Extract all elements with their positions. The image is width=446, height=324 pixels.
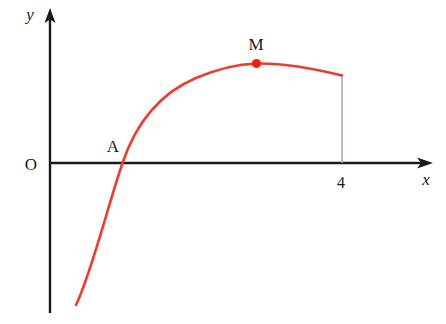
point-label-m: M: [248, 35, 263, 54]
figure-canvas: y x O A M 4: [0, 0, 446, 324]
x-axis: [50, 158, 433, 169]
x-axis-label: x: [421, 170, 430, 189]
x-tick-label-4: 4: [337, 174, 345, 191]
y-axis-label: y: [24, 5, 34, 24]
function-curve: [76, 63, 342, 305]
origin-label: O: [25, 155, 37, 174]
coordinate-plane-figure: y x O A M 4: [0, 0, 446, 324]
y-axis: [45, 8, 56, 313]
point-marker-m: [252, 59, 261, 68]
point-label-a: A: [107, 137, 120, 156]
